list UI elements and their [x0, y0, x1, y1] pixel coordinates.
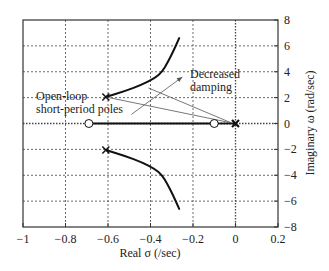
y-tick-label: 0 — [284, 117, 290, 131]
x-tick-label: 0 — [233, 232, 239, 246]
locus-lower-branch — [106, 150, 179, 209]
y-axis-ticks: 86420−2−4−6−8 — [274, 13, 297, 234]
y-tick-label: −2 — [284, 142, 297, 156]
locus-upper-branch — [106, 38, 179, 97]
y-tick-label: −6 — [284, 194, 297, 208]
annotation-poles-line1: Open-loop — [36, 89, 87, 103]
y-tick-label: 8 — [284, 13, 290, 27]
y-tick-label: 4 — [284, 65, 290, 79]
y-tick-label: 2 — [284, 91, 290, 105]
y-axis-label: Imaginary ω (rad/sec) — [303, 70, 317, 175]
x-tick-label: −0.4 — [140, 232, 162, 246]
x-axis-label: Real σ (/sec) — [119, 246, 180, 260]
arrowhead-icon — [177, 77, 183, 82]
y-tick-label: 6 — [284, 39, 290, 53]
root-locus-chart: −1−0.8−0.6−0.4−0.200.2 86420−2−4−6−8 Rea… — [0, 0, 329, 271]
zero-o-marker — [85, 120, 93, 128]
x-tick-label: 0.2 — [271, 232, 286, 246]
x-tick-label: −0.2 — [182, 232, 204, 246]
annotation-poles-line2: short-period poles — [36, 102, 123, 116]
x-tick-label: −1 — [17, 232, 30, 246]
x-tick-label: −0.6 — [97, 232, 119, 246]
annotation-damping-line1: Decreased — [190, 67, 240, 81]
y-tick-label: −8 — [284, 220, 297, 234]
annotation-leader-line — [106, 97, 231, 123]
x-tick-label: −0.8 — [55, 232, 77, 246]
decreased-damping-arrow — [131, 77, 182, 115]
zero-o-marker — [210, 120, 218, 128]
y-tick-label: −4 — [284, 168, 297, 182]
annotation-poles: Open-loop short-period poles — [36, 89, 123, 116]
annotation-damping-line2: damping — [190, 80, 232, 94]
